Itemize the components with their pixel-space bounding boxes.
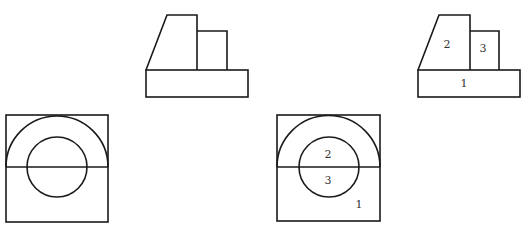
top-view-unlabeled xyxy=(6,115,108,222)
label-2: 2 xyxy=(444,38,451,51)
small-block xyxy=(197,31,227,70)
label-3: 3 xyxy=(325,174,332,187)
label-2: 2 xyxy=(325,148,332,161)
label-1: 1 xyxy=(461,77,468,90)
base-block xyxy=(146,70,248,97)
label-1: 1 xyxy=(356,198,363,211)
top-view-labeled: 2 3 1 xyxy=(277,115,380,221)
label-3: 3 xyxy=(480,42,487,55)
outer-semicircle xyxy=(6,116,108,167)
front-view-unlabeled xyxy=(146,15,248,97)
diagram-canvas: 2 3 1 2 3 1 xyxy=(0,0,531,232)
sloped-block xyxy=(146,15,197,70)
front-view-labeled: 2 3 1 xyxy=(418,15,520,97)
base-block xyxy=(418,70,520,97)
